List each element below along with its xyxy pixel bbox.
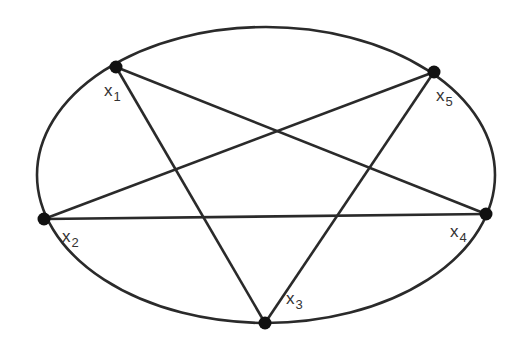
node-x3 (259, 317, 272, 330)
background (0, 0, 523, 347)
node-x4 (480, 208, 493, 221)
node-x1 (110, 61, 123, 74)
node-x5 (428, 66, 441, 79)
node-x2 (38, 213, 51, 226)
pentagram-graph-diagram: x1x2x3x4x5 (0, 0, 523, 347)
